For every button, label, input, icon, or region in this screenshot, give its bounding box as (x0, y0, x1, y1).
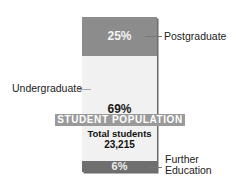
total-students: Total students 23,215 (82, 128, 157, 150)
segment-further-education: 6% (82, 161, 157, 172)
undergraduate-leader-line (77, 89, 91, 90)
chart-stage: 25% 69% 6% STUDENT POPULATION Total stud… (0, 0, 235, 184)
total-label: Total students (82, 128, 157, 139)
postgraduate-leader-line (145, 36, 162, 37)
postgraduate-label: Postgraduate (164, 31, 226, 42)
further-education-label-line2: Education (165, 165, 212, 176)
total-value: 23,215 (82, 139, 157, 150)
undergraduate-label: Undergraduate (12, 83, 82, 94)
chart-title-banner: STUDENT POPULATION (55, 114, 185, 126)
further-education-value: 6% (82, 160, 157, 172)
further-education-leader-line (150, 167, 162, 168)
